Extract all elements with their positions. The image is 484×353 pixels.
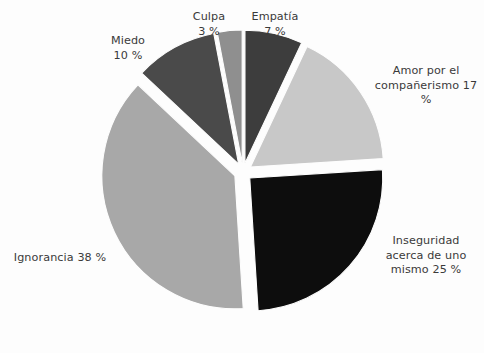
pie-label-miedo: Miedo 10 % (92, 34, 164, 63)
pie-chart: Miedo 10 % Culpa 3 % Empatía 7 % Amor po… (0, 0, 484, 353)
pie-slices-group (102, 30, 383, 311)
pie-label-inseguridad-acerca-de-uno-mismo: Inseguridad acerca de uno mismo 25 % (372, 234, 480, 278)
pie-label-ignorancia: Ignorancia 38 % (8, 251, 112, 266)
pie-label-amor-por-el-companerismo: Amor por el compañerismo 17 % (368, 64, 484, 108)
pie-slice-inseguridad-acerca-de-uno-mismo[interactable] (250, 170, 383, 311)
pie-label-culpa: Culpa 3 % (178, 10, 240, 39)
pie-label-empatia: Empatía 7 % (238, 10, 312, 39)
pie-chart-canvas (0, 0, 484, 353)
